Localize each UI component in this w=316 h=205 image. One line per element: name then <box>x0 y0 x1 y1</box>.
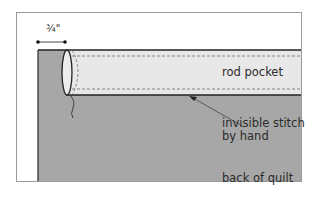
invisible-stitch-label: invisible stitch by hand <box>222 117 305 143</box>
dimension-dot-left <box>36 40 40 44</box>
dimension-label: ¾" <box>46 23 60 34</box>
dimension-dot-right <box>63 40 67 44</box>
invisible-stitch-label-line2: by hand <box>222 130 305 143</box>
rod-pocket-label: rod pocket <box>222 66 283 79</box>
rod-pocket-opening <box>62 50 72 95</box>
back-of-quilt-label: back of quilt <box>222 172 293 185</box>
